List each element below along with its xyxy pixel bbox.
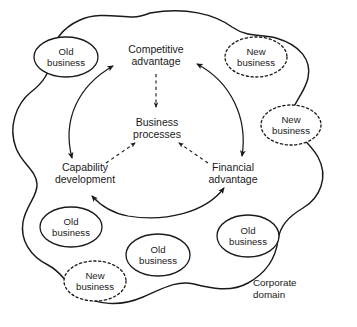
label-old-business-top-left-line2: business [47,57,85,68]
label-old-business-bottom-center-line1: Old [139,244,177,255]
label-old-business-bottom-left-line1: Old [52,216,90,227]
label-new-business-bottom-left-line2: business [76,281,114,292]
label-new-business-top-right: New business [237,46,275,68]
label-old-business-top-left: Old business [47,46,85,68]
corporate-domain-label-line1: Corporate [253,277,297,289]
label-old-business-bottom-left-line2: business [52,227,90,238]
label-new-business-top-right-line1: New [237,46,275,57]
label-old-business-bottom-right: Old business [229,225,267,247]
label-new-business-top-right-line2: business [237,57,275,68]
corporate-domain-diagram: Competitive advantage Capability develop… [0,0,357,327]
label-new-business-right-line1: New [272,114,310,125]
label-old-business-bottom-center-line2: business [139,255,177,266]
corporate-domain-label: Corporate domain [253,277,297,300]
label-old-business-bottom-center: Old business [139,244,177,266]
label-new-business-bottom-left-line1: New [76,270,114,281]
label-old-business-bottom-right-line1: Old [229,225,267,236]
label-new-business-right-line2: business [272,125,310,136]
corporate-domain-label-line2: domain [253,289,297,301]
label-old-business-top-left-line1: Old [47,46,85,57]
label-new-business-bottom-left: New business [76,270,114,292]
label-new-business-right: New business [272,114,310,136]
label-old-business-bottom-left: Old business [52,216,90,238]
label-old-business-bottom-right-line2: business [229,236,267,247]
